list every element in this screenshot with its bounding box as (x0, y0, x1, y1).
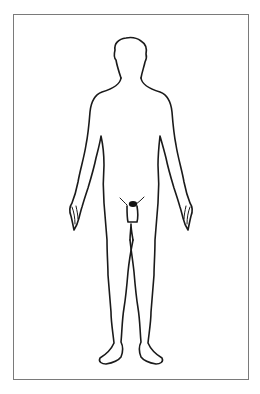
head-outline (114, 38, 146, 78)
right-side-outline (130, 78, 192, 364)
groin-mark (129, 201, 137, 207)
left-side-outline (70, 78, 133, 364)
groin-outline (127, 206, 138, 222)
crotch-outline (130, 224, 133, 240)
body-outline-figure (0, 0, 260, 394)
